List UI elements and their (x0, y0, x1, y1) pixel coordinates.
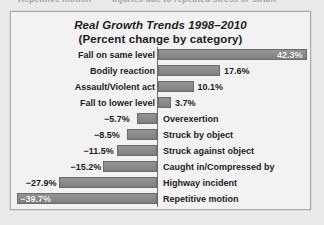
bar (158, 81, 194, 92)
bar (127, 129, 157, 140)
value-label: 10.1% (198, 81, 224, 93)
bar-row: Fall on same level42.3% (11, 47, 312, 63)
screenshot-root: Repetitive motion Injuries due to repeat… (0, 0, 324, 225)
bar (158, 65, 220, 76)
category-label: Struck by object (163, 129, 233, 141)
category-label: Fall to lower level (80, 97, 155, 109)
value-label: −11.5% (84, 145, 114, 157)
chart-title-block: Real Growth Trends 1998–2010 (Percent ch… (11, 18, 310, 46)
category-label: Highway incident (163, 177, 237, 189)
value-label: 3.7% (175, 97, 196, 109)
value-label: −15.2% (70, 161, 101, 173)
value-label: −39.7% (20, 193, 51, 205)
value-label: −5.7% (104, 113, 130, 125)
bar (117, 145, 157, 156)
bar-row: Struck against object−11.5% (11, 143, 312, 159)
bar-row: Overexertion−5.7% (11, 111, 312, 127)
value-label: 42.3% (277, 49, 303, 61)
bar (59, 177, 157, 188)
bar-row: Assault/Violent act10.1% (11, 79, 312, 95)
value-label: −8.5% (94, 129, 120, 141)
category-label: Overexertion (163, 113, 219, 125)
chart-subtitle: (Percent change by category) (11, 32, 310, 46)
category-label: Repetitive motion (163, 193, 239, 205)
category-label: Bodily reaction (90, 65, 155, 77)
cut-off-text-strip: Repetitive motion Injuries due to repeat… (0, 0, 324, 9)
bar-row: Struck by object−8.5% (11, 127, 312, 143)
bar-row: Bodily reaction17.6% (11, 63, 312, 79)
cut-off-text: Repetitive motion Injuries due to repeat… (18, 0, 308, 4)
bar-row: Caught in/Compressed by−15.2% (11, 159, 312, 175)
bar (137, 113, 157, 124)
chart-panel: Real Growth Trends 1998–2010 (Percent ch… (10, 11, 311, 210)
plot-area: Fall on same level42.3%Bodily reaction17… (11, 47, 312, 209)
category-label: Struck against object (163, 145, 254, 157)
category-label: Fall on same level (78, 49, 155, 61)
chart-title: Real Growth Trends 1998–2010 (11, 18, 310, 32)
bar-row: Fall to lower level3.7% (11, 95, 312, 111)
category-label: Caught in/Compressed by (163, 161, 275, 173)
bar-row: Repetitive motion−39.7% (11, 191, 312, 207)
value-label: −27.9% (26, 177, 57, 189)
value-label: 17.6% (224, 65, 250, 77)
bar-row: Highway incident−27.9% (11, 175, 312, 191)
bar (103, 161, 157, 172)
cut-off-text-left: Repetitive motion (18, 0, 91, 4)
bar (158, 97, 171, 108)
cut-off-text-right: Injuries due to repeated stress or strai… (112, 0, 276, 4)
category-label: Assault/Violent act (75, 81, 155, 93)
